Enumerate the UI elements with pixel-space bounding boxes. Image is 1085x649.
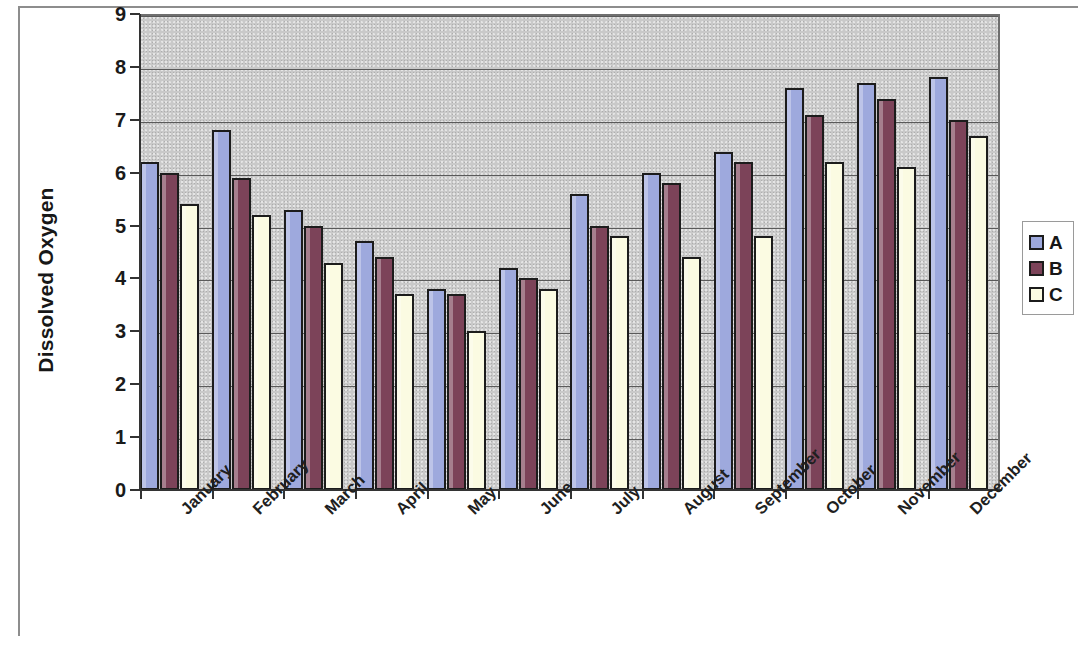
bar-highlight: [971, 138, 975, 488]
y-axis-tick-mark: [130, 172, 140, 174]
y-axis-tick-mark: [130, 13, 140, 15]
y-axis-tick-label: 6: [86, 161, 126, 184]
legend-swatch-c: [1029, 287, 1044, 302]
bar-highlight: [716, 154, 720, 488]
bar-august-a: [642, 173, 661, 490]
y-axis-tick-mark: [130, 383, 140, 385]
bar-highlight: [592, 228, 596, 488]
bar-group: [928, 16, 1000, 490]
bar-may-a: [427, 289, 446, 490]
plot-area: [140, 14, 1000, 490]
bar-march-b: [304, 226, 323, 490]
bar-september-b: [734, 162, 753, 490]
bar-february-c: [252, 215, 271, 490]
bar-highlight: [899, 169, 903, 488]
bar-highlight: [572, 196, 576, 488]
bar-highlight: [306, 228, 310, 488]
bar-may-c: [467, 331, 486, 490]
legend-label-a: A: [1049, 233, 1063, 252]
x-axis-tick-mark: [642, 491, 644, 499]
bar-group: [498, 16, 570, 490]
legend-item-c[interactable]: C: [1029, 281, 1069, 307]
y-axis-tick-mark: [130, 66, 140, 68]
x-axis-tick-mark: [140, 491, 142, 499]
bar-september-c: [754, 236, 773, 490]
bar-november-a: [857, 83, 876, 490]
bar-group: [570, 16, 642, 490]
bar-july-a: [570, 194, 589, 490]
legend-item-a[interactable]: A: [1029, 229, 1069, 255]
y-axis-tick-label: 8: [86, 55, 126, 78]
y-axis-tick-mark: [130, 119, 140, 121]
x-axis-tick-mark: [928, 491, 930, 499]
y-axis-tick-mark: [130, 489, 140, 491]
bar-april-b: [375, 257, 394, 490]
bar-highlight: [787, 90, 791, 488]
bar-group: [642, 16, 714, 490]
bar-august-b: [662, 183, 681, 490]
y-axis-line: [139, 14, 141, 491]
bar-highlight: [827, 164, 831, 488]
bar-highlight: [469, 333, 473, 488]
legend-item-b[interactable]: B: [1029, 255, 1069, 281]
legend-label-c: C: [1049, 285, 1063, 304]
bar-february-b: [232, 178, 251, 490]
bar-october-a: [785, 88, 804, 490]
x-axis-tick-mark: [713, 491, 715, 499]
y-axis-title: Dissolved Oxygen: [34, 130, 58, 430]
bar-group: [140, 16, 212, 490]
x-axis-tick-mark: [355, 491, 357, 499]
bar-june-c: [539, 289, 558, 490]
bar-group: [785, 16, 857, 490]
bar-july-c: [610, 236, 629, 490]
x-axis-tick-mark: [283, 491, 285, 499]
bar-group: [355, 16, 427, 490]
bar-december-b: [949, 120, 968, 490]
x-axis-tick-mark: [785, 491, 787, 499]
bar-january-b: [160, 173, 179, 490]
y-axis-tick-mark: [130, 330, 140, 332]
bar-highlight: [182, 206, 186, 488]
bar-highlight: [612, 238, 616, 488]
legend-label-b: B: [1049, 259, 1063, 278]
bar-december-a: [929, 77, 948, 490]
bar-highlight: [254, 217, 258, 488]
page-frame-left-rule: [18, 6, 20, 636]
bar-highlight: [807, 117, 811, 489]
y-axis-tick-label: 1: [86, 426, 126, 449]
bar-march-c: [324, 263, 343, 490]
bar-group: [427, 16, 499, 490]
bar-highlight: [541, 291, 545, 488]
y-axis-tick-mark: [130, 436, 140, 438]
bar-june-a: [499, 268, 518, 490]
y-axis-tick-label: 2: [86, 373, 126, 396]
y-axis-tick-label: 0: [86, 479, 126, 502]
y-axis-tick-labels: 0123456789: [78, 0, 126, 649]
x-axis-tick-mark: [498, 491, 500, 499]
bar-group: [857, 16, 929, 490]
bar-group: [283, 16, 355, 490]
bar-highlight: [377, 259, 381, 488]
bar-march-a: [284, 210, 303, 490]
bar-highlight: [951, 122, 955, 488]
bar-july-b: [590, 226, 609, 490]
bar-highlight: [429, 291, 433, 488]
bar-october-c: [825, 162, 844, 490]
y-axis-tick-label: 7: [86, 108, 126, 131]
bar-group: [212, 16, 284, 490]
bar-november-b: [877, 99, 896, 490]
bar-highlight: [214, 132, 218, 488]
bar-highlight: [162, 175, 166, 488]
x-axis-tick-mark: [857, 491, 859, 499]
page-frame-top-rule: [18, 6, 1078, 8]
bar-january-a: [140, 162, 159, 490]
bar-highlight: [234, 180, 238, 488]
legend-swatch-a: [1029, 235, 1044, 250]
bar-september-a: [714, 152, 733, 490]
bar-highlight: [879, 101, 883, 488]
bar-group: [713, 16, 785, 490]
bar-highlight: [736, 164, 740, 488]
y-axis-tick-mark: [130, 277, 140, 279]
bar-highlight: [501, 270, 505, 488]
bar-january-c: [180, 204, 199, 490]
